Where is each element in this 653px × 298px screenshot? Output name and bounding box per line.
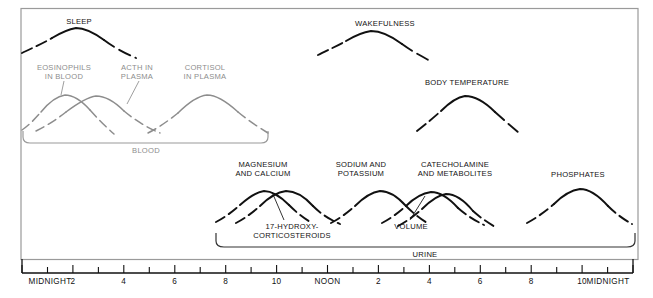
- axis-tick-label-10pm: 10: [577, 277, 587, 286]
- circadian-rhythm-figure: SLEEP WAKEFULNESS BODY TEMPERATURE EOSIN…: [0, 0, 653, 298]
- label-17-hydroxycorticosteroids: 17-HYDROXY- CORTICOSTEROIDS: [253, 222, 330, 241]
- label-wakefulness: WAKEFULNESS: [355, 19, 415, 28]
- axis-tick-label-10am: 10: [272, 277, 282, 286]
- label-body-temperature: BODY TEMPERATURE: [425, 78, 509, 87]
- leader-acth: [127, 81, 139, 104]
- axis-tick-label-4pm: 4: [427, 277, 432, 286]
- label-sodium-and-potassium: SODIUM AND POTASSIUM: [336, 160, 387, 179]
- axis-ticks: [22, 265, 633, 273]
- label-volume: VOLUME: [394, 222, 428, 231]
- curve-wakefulness: [318, 31, 432, 62]
- axis-tick-label-midnight-right: MIDNIGHT: [587, 277, 630, 286]
- plot-canvas: [0, 0, 653, 298]
- axis-tick-label-2pm: 2: [376, 277, 381, 286]
- axis-tick-label-8am: 8: [223, 277, 228, 286]
- axis-tick-label-8pm: 8: [529, 277, 534, 286]
- label-cortisol-in-plasma: CORTISOL IN PLASMA: [184, 63, 227, 82]
- bracket-blood: [23, 131, 268, 143]
- axis-tick-label-4am: 4: [121, 277, 126, 286]
- curve-cortisol-in-plasma: [148, 95, 268, 133]
- axis-tick-label-2am: 2: [70, 277, 75, 286]
- axis-tick-label-6am: 6: [172, 277, 177, 286]
- curve-eosinophils-in-blood: [22, 95, 114, 134]
- leader-lines: [61, 81, 425, 220]
- axis-tick-label-6pm: 6: [478, 277, 483, 286]
- label-phosphates: PHOSPHATES: [551, 170, 605, 179]
- curve-phosphates: [527, 189, 632, 224]
- curve-sleep: [22, 28, 136, 58]
- curve-body-temperature: [417, 96, 519, 133]
- bracket-label-blood: BLOOD: [132, 146, 160, 155]
- x-axis: [22, 259, 633, 273]
- bracket-label-urine: URINE: [413, 250, 438, 259]
- curve-magnesium-and-calcium: [216, 191, 312, 223]
- leader-eosinophils: [61, 81, 64, 95]
- label-eosinophils-in-blood: EOSINOPHILS IN BLOOD: [37, 63, 91, 82]
- axis-tick-label-noon: NOON: [315, 277, 341, 286]
- curve-sodium-and-potassium: [331, 191, 429, 224]
- label-magnesium-and-calcium: MAGNESIUM AND CALCIUM: [235, 160, 290, 179]
- label-sleep: SLEEP: [66, 17, 92, 26]
- label-catecholamine-and-metabolites: CATECHOLAMINE AND METABOLITES: [418, 160, 493, 179]
- axis-tick-label-midnight-left: MIDNIGHT: [29, 277, 72, 286]
- curve-acth-in-plasma: [36, 96, 160, 133]
- label-acth-in-plasma: ACTH IN PLASMA: [121, 63, 153, 82]
